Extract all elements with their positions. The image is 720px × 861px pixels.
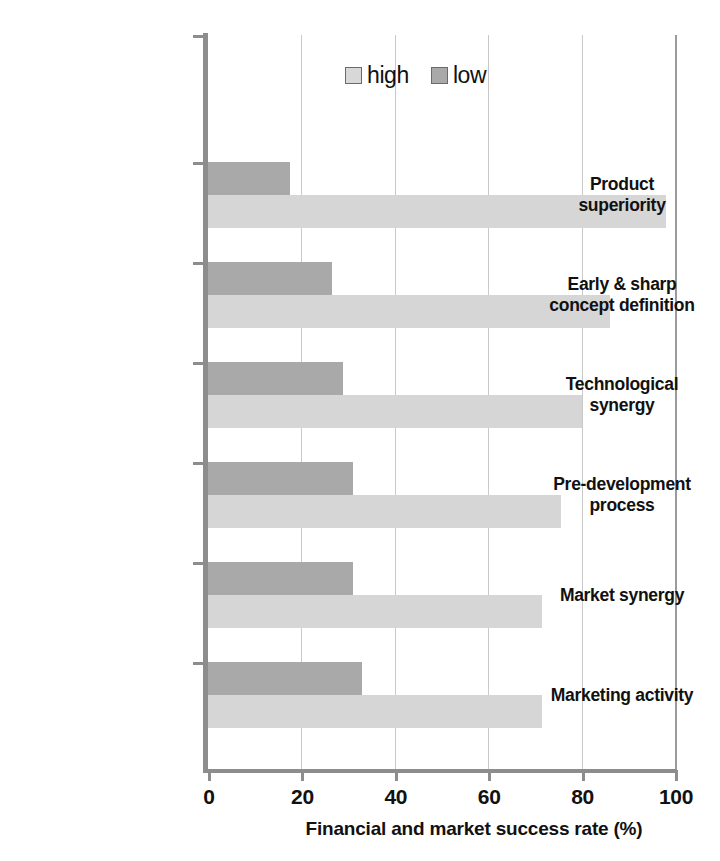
category-label-line: Early & sharp: [524, 274, 720, 295]
bar-low-1: [208, 262, 332, 295]
x-tick-100: [675, 770, 678, 781]
x-axis-title-text: Financial and market success rate (%): [306, 818, 643, 840]
x-tick-label-60: 60: [478, 785, 501, 809]
x-axis-line: [203, 769, 677, 773]
bar-low-2: [208, 362, 343, 395]
bar-low-3: [208, 462, 353, 495]
y-tick-3: [193, 362, 205, 365]
category-label-line: synergy: [524, 395, 720, 416]
legend-swatch-low-icon: [431, 67, 448, 84]
y-tick-1: [193, 162, 205, 165]
y-tick-4: [193, 462, 205, 465]
legend: high low: [345, 62, 486, 89]
x-tick-0: [208, 770, 211, 781]
x-tick-40: [395, 770, 398, 781]
x-tick-60: [488, 770, 491, 781]
legend-item-high: high: [345, 62, 409, 89]
x-tick-label-80: 80: [571, 785, 594, 809]
bar-high-5: [208, 695, 542, 728]
bar-low-0: [208, 162, 290, 195]
category-label-3: Pre-developmentprocess: [524, 474, 720, 516]
y-tick-2: [193, 262, 205, 265]
x-tick-label-20: 20: [291, 785, 314, 809]
category-label-line: process: [524, 495, 720, 516]
bar-chart: 020406080100 ProductsuperiorityEarly & s…: [0, 0, 720, 861]
category-label-line: Marketing activity: [524, 685, 720, 706]
category-label-line: Technological: [524, 374, 720, 395]
bar-low-5: [208, 662, 362, 695]
y-tick-5: [193, 562, 205, 565]
x-tick-label-100: 100: [659, 785, 693, 809]
legend-label-high: high: [367, 62, 409, 89]
category-label-line: Product: [524, 174, 720, 195]
category-label-1: Early & sharpconcept definition: [524, 274, 720, 316]
legend-item-low: low: [431, 62, 486, 89]
category-label-line: Pre-development: [524, 474, 720, 495]
category-label-line: superiority: [524, 195, 720, 216]
category-label-5: Marketing activity: [524, 685, 720, 706]
category-label-line: concept definition: [524, 295, 720, 316]
x-tick-80: [582, 770, 585, 781]
y-tick-6: [193, 662, 205, 665]
bar-high-4: [208, 595, 542, 628]
category-label-0: Productsuperiority: [524, 174, 720, 216]
x-tick-label-40: 40: [384, 785, 407, 809]
bar-high-3: [208, 495, 561, 528]
x-axis-title: Financial and market success rate (%): [0, 818, 720, 840]
category-label-2: Technologicalsynergy: [524, 374, 720, 416]
bar-low-4: [208, 562, 353, 595]
legend-label-low: low: [453, 62, 486, 89]
x-tick-label-0: 0: [203, 785, 214, 809]
category-label-4: Market synergy: [524, 585, 720, 606]
x-tick-20: [301, 770, 304, 781]
legend-swatch-high-icon: [345, 67, 362, 84]
category-label-line: Market synergy: [524, 585, 720, 606]
y-tick-0: [193, 35, 205, 38]
